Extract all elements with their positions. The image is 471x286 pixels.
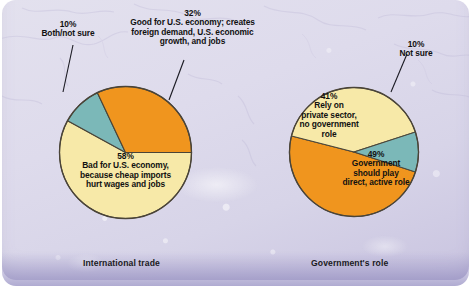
label-both-not-sure: 10% Both/not sure	[18, 20, 118, 39]
caption-international-trade: International trade	[83, 258, 160, 268]
label-bad-line3: hurt wages and jobs	[86, 179, 165, 189]
label-not-sure-line1: Not sure	[399, 48, 432, 58]
caption-governments-role: Government's role	[311, 258, 388, 268]
label-both-line1: Both/not sure	[41, 28, 94, 38]
label-government-role: 49% Government should play direct, activ…	[320, 150, 432, 188]
figure-stage: 10% Both/not sure 32% Good for U.S. econ…	[0, 0, 471, 286]
label-private-line4: role	[322, 129, 337, 139]
label-government-line3: direct, active role	[343, 177, 410, 187]
label-private-sector: 41% Rely on private sector, no governmen…	[283, 92, 375, 139]
label-not-sure: 10% Not sure	[378, 40, 454, 59]
label-good-line3: growth, and jobs	[160, 36, 225, 46]
label-bad-economy: 58% Bad for U.S. economy, because cheap …	[43, 152, 208, 190]
label-good-economy: 32% Good for U.S. economy; creates forei…	[110, 9, 275, 47]
